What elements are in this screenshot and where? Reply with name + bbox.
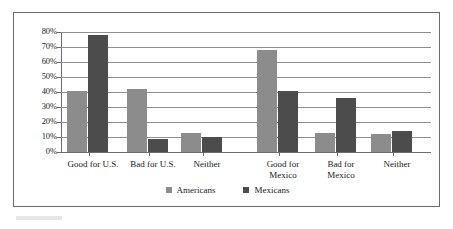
x-axis-tick-mark: [149, 152, 150, 156]
legend-entry-mexicans[interactable]: Mexicans: [243, 185, 289, 195]
y-axis-tick-label: 30%: [27, 102, 57, 111]
legend-entry-americans[interactable]: Americans: [166, 185, 216, 195]
y-axis-tick-label: 60%: [27, 57, 57, 66]
legend-label: Americans: [177, 185, 216, 195]
gridline: [61, 47, 431, 48]
x-axis-tick-mark: [203, 152, 204, 156]
bar-mexicans-2: [202, 137, 222, 152]
bar-americans-1: [127, 89, 147, 152]
x-axis-tick-mark: [89, 152, 90, 156]
gridline: [61, 152, 431, 153]
x-axis-label: Neither: [167, 159, 247, 170]
y-axis-tick-mark: [57, 122, 61, 123]
plot-area: [61, 32, 431, 152]
gridline: [61, 107, 431, 108]
y-axis-tick-mark: [57, 107, 61, 108]
y-axis-tick-mark: [57, 77, 61, 78]
bar-mexicans-3: [278, 91, 298, 153]
bar-americans-0: [67, 91, 87, 153]
gridline: [61, 92, 431, 93]
y-axis-tick-mark: [57, 32, 61, 33]
bar-americans-2: [181, 133, 201, 153]
gridline: [61, 77, 431, 78]
bar-americans-5: [371, 134, 391, 152]
chart-figure-frame: 80%70%60%50%40%30%20%10%0% Good for U.S.…: [13, 12, 440, 207]
y-axis-tick-label: 40%: [27, 87, 57, 96]
bar-chart: 80%70%60%50%40%30%20%10%0% Good for U.S.…: [14, 13, 441, 208]
bar-mexicans-5: [392, 131, 412, 152]
y-axis-tick-label: 70%: [27, 42, 57, 51]
y-axis-tick-mark: [57, 92, 61, 93]
bar-americans-4: [315, 133, 335, 153]
bar-mexicans-1: [148, 139, 168, 153]
x-axis-tick-mark: [393, 152, 394, 156]
x-axis-tick-mark: [279, 152, 280, 156]
bar-americans-3: [257, 50, 277, 152]
x-axis-label: Neither: [357, 159, 437, 170]
y-axis-tick-label: 80%: [27, 27, 57, 36]
legend-swatch-icon: [166, 187, 172, 193]
y-axis-tick-mark: [57, 47, 61, 48]
y-axis-tick-label: 0%: [27, 147, 57, 156]
legend-swatch-icon: [243, 187, 249, 193]
legend-label: Mexicans: [254, 185, 289, 195]
gridline: [61, 122, 431, 123]
scan-artifact: [16, 216, 62, 220]
y-axis-tick-mark: [57, 62, 61, 63]
y-axis-tick-label: 20%: [27, 117, 57, 126]
x-axis-tick-mark: [337, 152, 338, 156]
chart-legend: AmericansMexicans: [14, 185, 441, 195]
bar-mexicans-0: [88, 35, 108, 152]
y-axis-labels: 80%70%60%50%40%30%20%10%0%: [23, 32, 57, 152]
y-axis-tick-mark: [57, 152, 61, 153]
bar-mexicans-4: [336, 98, 356, 152]
y-axis-tick-label: 50%: [27, 72, 57, 81]
y-axis-tick-mark: [57, 137, 61, 138]
y-axis-tick-label: 10%: [27, 132, 57, 141]
gridline: [61, 32, 431, 33]
gridline: [61, 62, 431, 63]
